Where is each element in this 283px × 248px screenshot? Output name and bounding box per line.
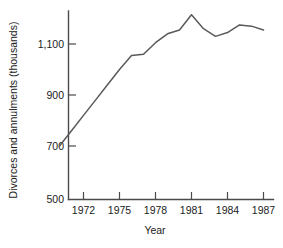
x-tick-label-1984: 1984 xyxy=(216,204,240,216)
y-axis-title: Divorces and annulments (thousands) xyxy=(7,22,19,199)
x-tick-label-1987: 1987 xyxy=(252,204,276,216)
x-tick-label-1972: 1972 xyxy=(72,204,96,216)
axes-group xyxy=(69,11,274,200)
y-tick-label-700: 700 xyxy=(46,140,64,152)
x-tick-label-1981: 1981 xyxy=(180,204,204,216)
x-tick-labels: 1972 1975 1978 1981 1984 1987 xyxy=(72,204,276,216)
chart-figure: Divorces and annulments (thousands) 1,10… xyxy=(0,0,283,248)
y-tick-label-1100: 1,100 xyxy=(38,38,64,50)
x-tick-label-1975: 1975 xyxy=(108,204,132,216)
y-tick-label-500: 500 xyxy=(46,193,64,205)
y-tick-labels: 1,100 900 700 500 xyxy=(38,38,64,205)
y-tick-label-900: 900 xyxy=(46,89,64,101)
x-axis-title: Year xyxy=(144,224,166,236)
data-series-line xyxy=(60,15,264,146)
x-tick-marks xyxy=(84,192,264,200)
line-chart: Divorces and annulments (thousands) 1,10… xyxy=(0,0,283,248)
x-tick-label-1978: 1978 xyxy=(144,204,168,216)
